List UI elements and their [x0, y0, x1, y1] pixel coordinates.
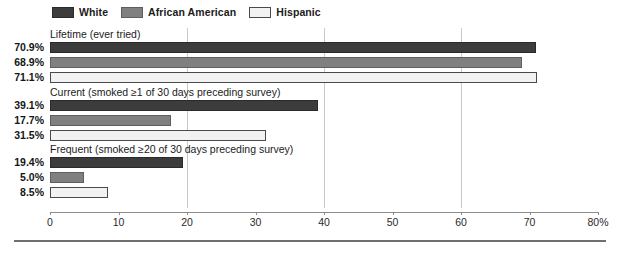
- bar-value-label: 19.4%: [0, 156, 44, 169]
- bar-african-american: [50, 115, 171, 126]
- x-tick-70: 70: [524, 216, 536, 228]
- x-tick-mark-0: [50, 212, 51, 215]
- bar-value-label: 71.1%: [0, 71, 44, 84]
- x-tick-10: 10: [113, 216, 125, 228]
- legend-label-white: White: [79, 6, 108, 18]
- legend-swatch-hispanic: [249, 7, 271, 18]
- x-tick-60: 60: [455, 216, 467, 228]
- bar-white: [50, 157, 183, 168]
- legend-label-african-american: African American: [148, 6, 236, 18]
- bar-african-american: [50, 172, 84, 183]
- x-tick-mark-60: [461, 212, 462, 215]
- bar-group-2: Current (smoked ≥1 of 30 days preceding …: [0, 86, 620, 144]
- group-title: Frequent (smoked ≥20 of 30 days precedin…: [50, 143, 293, 155]
- bar-value-label: 8.5%: [0, 186, 44, 199]
- x-tick-mark-50: [393, 212, 394, 215]
- bar-value-label: 5.0%: [0, 171, 44, 184]
- bar-chart: White African American Hispanic Lifetime…: [0, 0, 620, 255]
- x-tick-80: 80%: [587, 216, 608, 228]
- plot-area: Lifetime (ever tried)70.9%68.9%71.1%Curr…: [0, 28, 620, 208]
- group-title: Current (smoked ≥1 of 30 days preceding …: [50, 86, 280, 98]
- legend-item-african-american: African American: [121, 6, 236, 18]
- bar-value-label: 17.7%: [0, 114, 44, 127]
- bar-value-label: 39.1%: [0, 99, 44, 112]
- legend-swatch-white: [52, 7, 74, 18]
- legend-swatch-african-american: [121, 7, 143, 18]
- x-tick-mark-80: [598, 212, 599, 215]
- bar-hispanic: [50, 187, 108, 198]
- bar-value-label: 68.9%: [0, 56, 44, 69]
- bar-white: [50, 42, 536, 53]
- bar-group-3: Frequent (smoked ≥20 of 30 days precedin…: [0, 143, 620, 201]
- x-tick-30: 30: [250, 216, 262, 228]
- legend-item-hispanic: Hispanic: [249, 6, 321, 18]
- x-tick-0: 0: [47, 216, 53, 228]
- x-tick-40: 40: [318, 216, 330, 228]
- bar-african-american: [50, 57, 522, 68]
- x-tick-mark-70: [530, 212, 531, 215]
- bar-group-1: Lifetime (ever tried)70.9%68.9%71.1%: [0, 28, 620, 86]
- chart-legend: White African American Hispanic: [52, 6, 321, 18]
- bar-hispanic: [50, 130, 266, 141]
- legend-item-white: White: [52, 6, 108, 18]
- x-tick-50: 50: [387, 216, 399, 228]
- group-title: Lifetime (ever tried): [50, 28, 140, 40]
- x-tick-mark-40: [324, 212, 325, 215]
- x-tick-mark-10: [119, 212, 120, 215]
- bar-white: [50, 100, 318, 111]
- x-tick-mark-30: [256, 212, 257, 215]
- x-tick-20: 20: [181, 216, 193, 228]
- legend-label-hispanic: Hispanic: [276, 6, 321, 18]
- x-tick-mark-20: [187, 212, 188, 215]
- bar-hispanic: [50, 72, 537, 83]
- footer-divider: [14, 240, 606, 242]
- bar-value-label: 31.5%: [0, 129, 44, 142]
- bar-value-label: 70.9%: [0, 41, 44, 54]
